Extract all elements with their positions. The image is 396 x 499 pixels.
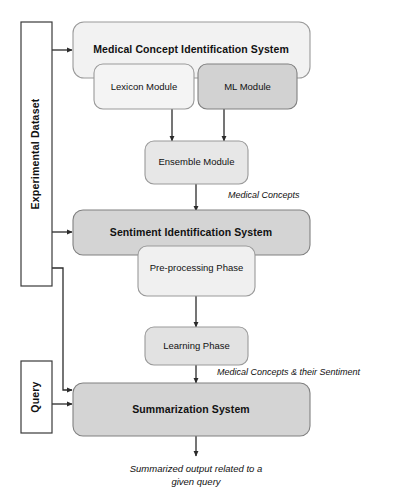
input-box-query[interactable]: Query (21, 361, 52, 433)
experimental-dataset-label: Experimental Dataset (29, 98, 41, 209)
diagram-canvas: Experimental Dataset Query Medical Conce… (0, 0, 396, 499)
module-learning-phase[interactable]: Learning Phase (145, 327, 248, 365)
module-ensemble[interactable]: Ensemble Module (145, 141, 248, 184)
module-ml[interactable]: ML Module (198, 64, 297, 109)
edge-label-medical-concepts: Medical Concepts (228, 190, 300, 200)
module-pre-processing-phase[interactable]: Pre-processing Phase (138, 246, 255, 296)
flow-dataset-to-summarization-system (52, 268, 72, 390)
flow-diagram: Experimental Dataset Query Medical Conce… (0, 0, 396, 499)
module-lexicon[interactable]: Lexicon Module (94, 64, 194, 109)
sentiment-identification-system-label: Sentiment Identification System (110, 226, 272, 238)
summarized-output-caption: Summarized output related to a given que… (130, 463, 263, 487)
ensemble-module-label: Ensemble Module (158, 156, 234, 167)
ml-module-label: ML Module (224, 81, 271, 92)
input-box-experimental-dataset[interactable]: Experimental Dataset (21, 22, 52, 286)
lexicon-module-label: Lexicon Module (111, 81, 178, 92)
edge-label-medical-concepts-and-sentiment: Medical Concepts & their Sentiment (217, 367, 361, 377)
learning-phase-label: Learning Phase (163, 340, 230, 351)
query-label: Query (29, 381, 41, 412)
system-summarization[interactable]: Summarization System (73, 383, 310, 436)
output-caption-line-2: given query (171, 476, 221, 487)
medical-concept-identification-system-label: Medical Concept Identification System (93, 43, 289, 55)
summarization-system-label: Summarization System (132, 403, 250, 415)
pre-processing-phase-label: Pre-processing Phase (150, 262, 243, 273)
output-caption-line-1: Summarized output related to a (130, 463, 263, 474)
